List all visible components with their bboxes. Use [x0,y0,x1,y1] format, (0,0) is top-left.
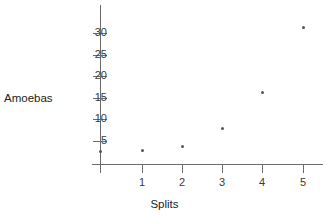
y-tick-group-20: 20 [0,76,107,77]
x-tick-mark-5 [303,164,304,173]
y-axis-title: Amoebas [4,92,53,105]
data-point [221,127,224,130]
x-tick-label-4: 4 [250,176,274,188]
x-tick-mark-3 [222,164,223,173]
y-tick-group-5: 5 [0,141,107,142]
y-tick-group-10: 10 [0,119,107,120]
x-axis-line [92,164,323,165]
data-point [141,149,144,152]
y-tick-group-25: 25 [0,55,107,56]
data-point [181,145,184,148]
y-tick-label: 10 [73,113,107,124]
x-tick-mark-origin [100,164,101,173]
x-tick-mark-1 [142,164,143,173]
x-tick-label-1: 1 [130,176,154,188]
x-axis-title: Splits [0,198,323,211]
x-tick-label-2: 2 [170,176,194,188]
scatter-plot-figure: 30 25 20 15 10 5 1 2 3 4 5 Amoebas Split… [0,0,323,217]
data-point [302,26,305,29]
y-tick-label: 5 [73,135,107,146]
x-tick-mark-2 [182,164,183,173]
x-tick-mark-4 [262,164,263,173]
x-tick-label-5: 5 [291,176,315,188]
data-point [261,91,264,94]
x-tick-label-3: 3 [210,176,234,188]
y-tick-label: 30 [73,27,107,38]
y-tick-group-30: 30 [0,33,107,34]
y-tick-label: 15 [73,92,107,103]
y-tick-label: 20 [73,70,107,81]
data-point [99,150,102,153]
y-tick-label: 25 [73,49,107,60]
x-axis-title-text: Splits [150,198,178,210]
